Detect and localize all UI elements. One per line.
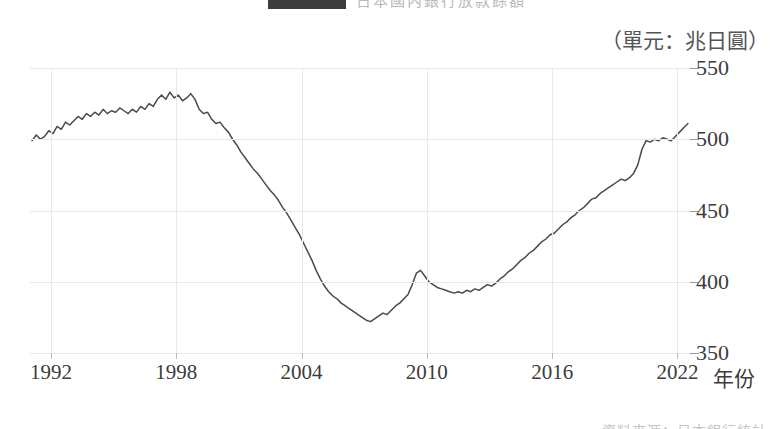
x-axis-tick-label: 2004 xyxy=(281,362,323,383)
legend-color-swatch xyxy=(268,0,346,9)
gridline-vertical xyxy=(176,68,177,353)
gridline-vertical xyxy=(427,68,428,353)
x-axis-tick xyxy=(552,353,553,359)
gridline-horizontal xyxy=(30,353,690,354)
x-axis-tick-label: 2010 xyxy=(406,362,448,383)
gridline-vertical xyxy=(552,68,553,353)
gridline-horizontal xyxy=(30,68,690,69)
x-axis-tick-label: 2016 xyxy=(531,362,573,383)
x-axis-tick-label: 1992 xyxy=(30,362,72,383)
y-axis-tick-label: 400 xyxy=(696,271,729,293)
data-line xyxy=(32,92,688,321)
gridline-vertical xyxy=(51,68,52,353)
y-axis-tick-label: 350 xyxy=(696,342,729,364)
x-axis-title: 年份 xyxy=(713,362,755,392)
gridline-vertical xyxy=(302,68,303,353)
gridline-horizontal xyxy=(30,139,690,140)
gridline-horizontal xyxy=(30,211,690,212)
gridline-vertical xyxy=(677,68,678,353)
gridline-horizontal xyxy=(30,282,690,283)
x-axis-tick xyxy=(51,353,52,359)
legend-strip: 日本國內銀行放款餘額 xyxy=(0,0,783,12)
x-axis-tick-label: 1998 xyxy=(155,362,197,383)
legend-label: 日本國內銀行放款餘額 xyxy=(356,0,526,8)
unit-caption: （單元：兆日圓） xyxy=(601,24,769,54)
x-axis-tick xyxy=(176,353,177,359)
x-axis-tick xyxy=(677,353,678,359)
y-axis-tick-label: 550 xyxy=(696,57,729,79)
y-axis-tick-label: 450 xyxy=(696,200,729,222)
plot-area xyxy=(30,68,690,353)
x-axis-tick xyxy=(427,353,428,359)
x-axis-tick xyxy=(302,353,303,359)
x-axis-tick-label: 2022 xyxy=(656,362,698,383)
y-axis-tick-label: 500 xyxy=(696,128,729,150)
source-note: 資料來源：日本銀行統計 xyxy=(602,420,767,429)
